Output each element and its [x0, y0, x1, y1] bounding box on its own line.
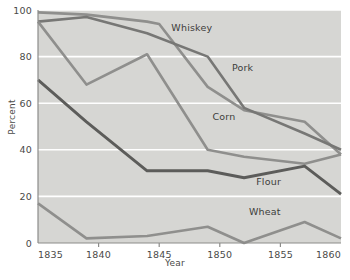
y-tick-label-20: 20 [20, 191, 33, 202]
series-label-flour: Flour [256, 176, 281, 187]
plot-background [38, 10, 341, 243]
series-label-pork: Pork [232, 62, 254, 73]
x-axis-title: Year [0, 258, 350, 268]
y-tick-label-60: 60 [20, 98, 33, 109]
line-chart: 183518401845185018551860020406080100Whis… [0, 0, 350, 280]
chart-figure: 183518401845185018551860020406080100Whis… [0, 0, 350, 280]
y-tick-label-80: 80 [20, 51, 33, 62]
y-tick-label-0: 0 [26, 238, 32, 249]
y-tick-label-40: 40 [20, 144, 33, 155]
series-label-whiskey: Whiskey [171, 22, 212, 33]
series-label-corn: Corn [213, 111, 236, 122]
y-tick-label-100: 100 [13, 5, 32, 16]
series-label-wheat: Wheat [249, 206, 281, 217]
y-axis-title: Percent [7, 87, 17, 147]
